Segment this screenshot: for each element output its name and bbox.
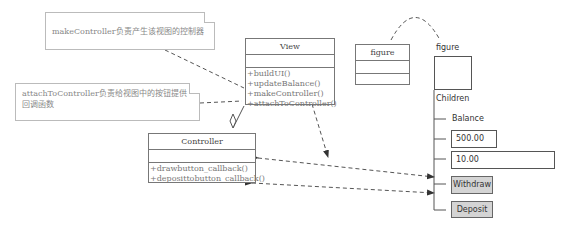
class-attributes [149,150,255,163]
class-attributes [356,61,409,74]
view-class: View +buildUI() +updateBalance() +makeCo… [245,38,335,105]
children-label: Children [436,94,469,103]
class-name: View [246,39,334,55]
figure-window [434,56,472,90]
controller-class: Controller +drawbutton_callback() +depos… [148,133,256,183]
note-attach-controller: attachToController负责给视图中的按钮提供回调函数 [15,83,200,121]
note-make-controller: makeController负责产生该视图的控制器 [45,12,215,50]
operation: +deposittobutton_callback() [150,174,254,184]
class-operations: +buildUI() +updateBalance() +makeControl… [246,68,334,110]
amount-field[interactable]: 10.00 [451,151,555,169]
uml-diagram: makeController负责产生该视图的控制器 attachToContro… [0,0,568,225]
class-name: figure [356,45,409,61]
class-name: Controller [149,134,255,150]
operation: +attachToController() [247,99,333,109]
class-operations: +drawbutton_callback() +deposittobutton_… [149,163,255,185]
operation: +buildUI() [247,69,333,79]
note-fold-icon [204,12,215,23]
balance-field[interactable]: 500.00 [451,130,497,148]
operation: +updateBalance() [247,79,333,89]
withdraw-button[interactable]: Withdraw [451,176,493,194]
note-text: makeController负责产生该视图的控制器 [52,27,204,36]
operation: +drawbutton_callback() [150,164,254,174]
deposit-button[interactable]: Deposit [451,201,493,218]
figure-class: figure [355,44,410,85]
balance-label: Balance [452,114,484,123]
operation: +makeController() [247,89,333,99]
note-text: attachToController负责给视图中的按钮提供回调函数 [22,89,187,109]
class-attributes [246,55,334,68]
note-fold-icon [189,83,200,94]
figure-root-label: figure [436,43,459,52]
